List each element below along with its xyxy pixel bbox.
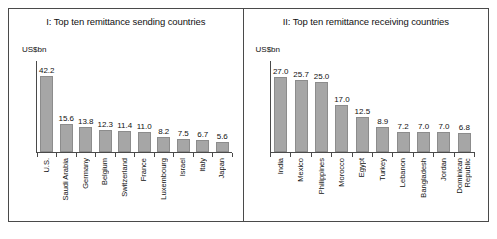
category-label: Italy — [199, 158, 207, 172]
bar-rect — [274, 77, 287, 152]
bar-rect — [216, 142, 229, 152]
x-axis-category: Egypt — [352, 158, 372, 177]
x-axis-tick — [76, 153, 96, 157]
x-axis-category: Saudi Arabia — [57, 158, 77, 201]
tick-mark — [392, 153, 393, 157]
bar-value-label: 11.4 — [117, 121, 132, 130]
bar-item: 15.6 — [57, 61, 77, 152]
bar-rect — [157, 137, 170, 152]
bar-series-receiving: 27.025.725.017.012.58.97.27.07.06.8 — [271, 61, 475, 152]
tick-mark — [154, 153, 155, 157]
bar-value-label: 27.0 — [273, 67, 289, 76]
tick-mark — [115, 153, 116, 157]
tick-mark — [454, 153, 455, 157]
bar-value-label: 7.5 — [178, 129, 189, 138]
bar-rect — [417, 132, 430, 152]
bar-value-label: 12.3 — [97, 120, 113, 129]
x-axis-category: U.S. — [37, 158, 57, 173]
x-axis-category: Mexico — [291, 158, 311, 182]
bar-item: 8.2 — [154, 61, 174, 152]
x-axis-category: Morocco — [332, 158, 352, 187]
tick-mark — [134, 153, 135, 157]
bar-value-label: 8.2 — [158, 127, 169, 136]
x-axis-tick — [454, 153, 474, 157]
bar-rect — [335, 105, 348, 152]
bar-value-label: 7.0 — [418, 122, 429, 131]
x-axis-tick — [434, 153, 454, 157]
bar-value-label: 6.8 — [459, 123, 470, 132]
x-axis-category: Philippines — [311, 158, 331, 194]
bar-item: 25.7 — [291, 61, 311, 152]
bar-rect — [397, 132, 410, 152]
category-label: India — [277, 158, 285, 174]
category-label: Dominican Republic — [456, 158, 472, 193]
x-axis-tick — [291, 153, 311, 157]
x-axis-tick — [271, 153, 291, 157]
bar-item: 11.4 — [115, 61, 135, 152]
bar-item: 12.5 — [352, 61, 372, 152]
bar-value-label: 7.0 — [438, 122, 449, 131]
tick-mark — [95, 153, 96, 157]
bar-value-label: 25.7 — [293, 70, 309, 79]
bar-value-label: 17.0 — [334, 95, 350, 104]
x-axis-tick — [135, 153, 155, 157]
bar-item: 42.2 — [37, 61, 57, 152]
bar-item: 5.6 — [213, 61, 233, 152]
tick-mark — [311, 153, 312, 157]
bar-item: 25.0 — [311, 61, 331, 152]
x-axis-tick — [154, 153, 174, 157]
x-axis-category-labels-receiving: IndiaMexicoPhilippinesMoroccoEgyptTurkey… — [271, 158, 475, 198]
category-label: Egypt — [358, 158, 366, 177]
x-axis-tick — [115, 153, 135, 157]
bar-item: 8.9 — [373, 61, 393, 152]
category-label: Belgium — [101, 158, 109, 185]
bar-value-label: 6.7 — [197, 130, 208, 139]
x-axis-category: Israel — [174, 158, 194, 176]
category-label: Israel — [179, 158, 187, 176]
x-axis-tick — [393, 153, 413, 157]
category-label: Philippines — [318, 158, 326, 194]
x-axis-category: France — [135, 158, 155, 181]
tick-mark — [212, 153, 213, 157]
bar-value-label: 25.0 — [314, 72, 330, 81]
category-label: Turkey — [379, 158, 387, 181]
tick-mark — [474, 153, 475, 157]
bar-value-label: 12.5 — [355, 107, 371, 116]
tick-mark — [76, 153, 77, 157]
tick-mark — [270, 153, 271, 157]
bar-rect — [295, 80, 308, 152]
bar-item: 7.0 — [413, 61, 433, 152]
x-axis-category: Luxembourg — [154, 158, 174, 200]
x-axis-tick — [37, 153, 57, 157]
category-label: Saudi Arabia — [62, 158, 70, 201]
x-axis-tick — [332, 153, 352, 157]
bar-rect — [40, 76, 53, 152]
x-axis-category: India — [271, 158, 291, 174]
plot-area-sending: 42.215.613.812.311.411.08.27.56.75.6 U.S… — [36, 61, 232, 153]
x-axis-tick — [96, 153, 116, 157]
tick-mark — [413, 153, 414, 157]
bar-item: 17.0 — [332, 61, 352, 152]
bar-rect — [79, 127, 92, 152]
tick-mark — [193, 153, 194, 157]
figure-frame: I: Top ten remittance sending countries … — [8, 8, 489, 222]
tick-mark — [331, 153, 332, 157]
chart-panel-receiving: II: Top ten remittance receiving countri… — [244, 9, 488, 221]
x-axis-tick — [413, 153, 433, 157]
x-axis-category: Switzerland — [115, 158, 135, 197]
category-label: Germany — [82, 158, 90, 189]
category-label: Japan — [218, 158, 226, 178]
bar-value-label: 7.2 — [398, 122, 409, 131]
x-axis-category: Dominican Republic — [454, 158, 474, 193]
bar-value-label: 11.0 — [137, 122, 152, 131]
x-axis-category: Germany — [76, 158, 96, 189]
category-label: Bangladesh — [420, 158, 428, 198]
bar-rect — [458, 133, 471, 152]
bar-rect — [356, 117, 369, 152]
x-axis-tick — [373, 153, 393, 157]
bar-rect — [376, 127, 389, 152]
plot-area-receiving: 27.025.725.017.012.58.97.27.07.06.8 Indi… — [270, 61, 475, 153]
x-axis-ticks-sending — [37, 153, 232, 157]
category-label: Lebanon — [399, 158, 407, 187]
bar-rect — [315, 82, 328, 152]
